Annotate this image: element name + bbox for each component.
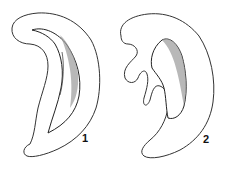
- panel-1-label: 1: [82, 132, 88, 144]
- drawing-panel-2: 2: [121, 14, 214, 158]
- panel-2-label: 2: [203, 133, 209, 145]
- figure-canvas: 1 2: [0, 0, 228, 169]
- drawing-panel-1: 1: [12, 13, 100, 157]
